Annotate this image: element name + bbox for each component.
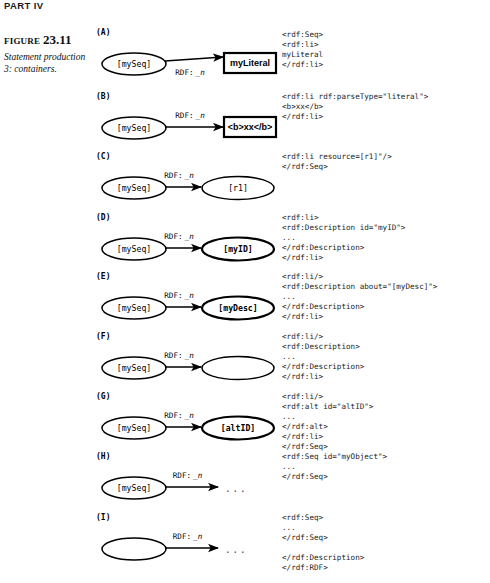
edge-label-suffix: _n	[185, 291, 195, 300]
edge-label: RDF:_n	[175, 68, 205, 77]
edge-label-suffix: _n	[196, 68, 206, 77]
rdf-xml-code: <rdf:Seq> <rdf:li> myLiteral </rdf:li>	[282, 30, 323, 70]
source-node: [mySeq]	[102, 297, 166, 319]
figure-label: FIGURE 23.11	[4, 33, 88, 48]
rdf-xml-code: <rdf:li/> <rdf:alt id="altID"> ... </rdf…	[282, 392, 373, 452]
edge-label: RDF:_n	[175, 111, 205, 120]
rdf-statement-graph: [mySeq][r1]RDF:_n	[96, 161, 278, 207]
figure-panel: (F)[mySeq]RDF:_n<rdf:li/> <rdf:Descripti…	[96, 332, 490, 392]
rdf-statement-graph: [mySeq][altID]RDF:_n	[96, 401, 278, 447]
source-node: [mySeq]	[102, 417, 166, 439]
panel-letter: (I)	[96, 513, 110, 522]
edge-label: RDF:_n	[164, 411, 194, 420]
rdf-statement-graph: [mySeq][myDesc]RDF:_n	[96, 281, 278, 327]
source-node: [mySeq]	[102, 53, 166, 75]
edge-label: RDF:_n	[173, 471, 203, 480]
rdf-xml-code: <rdf:li rdf:parseType="literal"> <b>xx</…	[282, 92, 428, 122]
figure-caption-text: Statement production 3: containers.	[4, 52, 88, 76]
target-node: <b>xx</b>	[224, 117, 276, 137]
target-node-label: [myID]	[223, 244, 253, 254]
edge-label: RDF:_n	[173, 532, 203, 541]
source-node-label: [mySeq]	[117, 423, 152, 433]
source-node-label: [mySeq]	[117, 123, 152, 133]
edge-label-suffix: _n	[185, 232, 195, 241]
edge-label-suffix: _n	[185, 351, 195, 360]
target-node: myLiteral	[224, 53, 276, 73]
figure-panel: (H)[mySeq]...RDF:_n<rdf:Seq id="myObject…	[96, 452, 490, 512]
source-node-label: [mySeq]	[117, 244, 152, 254]
source-node-label: [mySeq]	[117, 183, 152, 193]
panel-letter: (E)	[96, 272, 110, 281]
figure-number: 23.11	[43, 32, 72, 47]
edge-label-suffix: _n	[185, 411, 195, 420]
rdf-xml-code: <rdf:li resource=[r1]"/> </rdf:Seq>	[282, 152, 392, 172]
rdf-edge	[165, 57, 223, 61]
target-node-label: myLiteral	[230, 58, 270, 68]
edge-label-suffix: _n	[193, 532, 203, 541]
edge-label: RDF:_n	[164, 171, 194, 180]
figure-panel: (I)...RDF:_n<rdf:Seq> ... </rdf:Seq> </r…	[96, 513, 490, 573]
target-node: ...	[225, 544, 248, 555]
source-node-label: [mySeq]	[117, 363, 152, 373]
source-node: [mySeq]	[102, 477, 166, 499]
target-node-label: [myDesc]	[218, 303, 257, 313]
rdf-statement-graph: [mySeq]<b>xx</b>RDF:_n	[96, 101, 278, 147]
target-ellipsis: ...	[225, 544, 248, 555]
edge-label-suffix: _n	[185, 171, 195, 180]
panel-letter: (G)	[96, 392, 110, 401]
target-node: [myDesc]	[202, 297, 274, 320]
rdf-xml-code: <rdf:Seq id="myObject"> ... </rdf:Seq>	[282, 452, 387, 482]
source-node: [mySeq]	[102, 357, 166, 379]
rdf-xml-code: <rdf:li> <rdf:Description id="myID"> ...…	[282, 213, 405, 263]
target-ellipsis: ...	[225, 483, 248, 494]
running-head: PART IV	[4, 0, 44, 11]
figure-panel: (C)[mySeq][r1]RDF:_n<rdf:li resource=[r1…	[96, 152, 490, 212]
rdf-statement-graph: [mySeq][myID]RDF:_n	[96, 222, 278, 268]
panel-letter: (B)	[96, 92, 110, 101]
figure-panel: (D)[mySeq][myID]RDF:_n<rdf:li> <rdf:Desc…	[96, 213, 490, 273]
edge-label-suffix: _n	[196, 111, 206, 120]
rdf-statement-graph: ...RDF:_n	[96, 522, 278, 568]
target-node: [altID]	[202, 417, 274, 440]
target-node	[202, 357, 274, 380]
figure-caption-block: FIGURE 23.11 Statement production 3: con…	[4, 33, 88, 76]
source-node: [mySeq]	[102, 117, 166, 139]
figure-label-word: FIGURE	[4, 36, 40, 46]
target-node-label: <b>xx</b>	[228, 122, 273, 132]
figure-panel: (A)[mySeq]myLiteralRDF:_n<rdf:Seq> <rdf:…	[96, 28, 490, 88]
source-node: [mySeq]	[102, 238, 166, 260]
panel-letter: (H)	[96, 452, 110, 461]
source-node-label: [mySeq]	[117, 303, 152, 313]
target-node-label: [altID]	[221, 423, 256, 433]
figure-panel: (E)[mySeq][myDesc]RDF:_n<rdf:li/> <rdf:D…	[96, 272, 490, 332]
figure-panel: (G)[mySeq][altID]RDF:_n<rdf:li/> <rdf:al…	[96, 392, 490, 452]
figure-panel: (B)[mySeq]<b>xx</b>RDF:_n<rdf:li rdf:par…	[96, 92, 490, 152]
target-node: [r1]	[202, 177, 274, 200]
source-node	[102, 538, 166, 560]
panel-letter: (C)	[96, 152, 110, 161]
target-node-label: [r1]	[228, 183, 248, 193]
edge-label: RDF:_n	[164, 351, 194, 360]
rdf-xml-code: <rdf:li/> <rdf:Description> ... </rdf:De…	[282, 332, 364, 382]
source-node: [mySeq]	[102, 177, 166, 199]
rdf-xml-code: <rdf:Seq> ... </rdf:Seq> </rdf:Descripti…	[282, 513, 364, 573]
target-node: [myID]	[202, 238, 274, 261]
panel-letter: (A)	[96, 28, 110, 37]
edge-label: RDF:_n	[164, 232, 194, 241]
target-node: ...	[225, 483, 248, 494]
panel-letter: (F)	[96, 332, 110, 341]
panel-letter: (D)	[96, 213, 110, 222]
source-node-label: [mySeq]	[117, 59, 152, 69]
rdf-statement-graph: [mySeq]myLiteralRDF:_n	[96, 37, 278, 83]
rdf-statement-graph: [mySeq]...RDF:_n	[96, 461, 278, 507]
rdf-xml-code: <rdf:li/> <rdf:Description about="[myDes…	[282, 272, 437, 322]
source-node-label: [mySeq]	[117, 483, 152, 493]
rdf-statement-graph: [mySeq]RDF:_n	[96, 341, 278, 387]
edge-label: RDF:_n	[164, 291, 194, 300]
edge-label-suffix: _n	[193, 471, 203, 480]
